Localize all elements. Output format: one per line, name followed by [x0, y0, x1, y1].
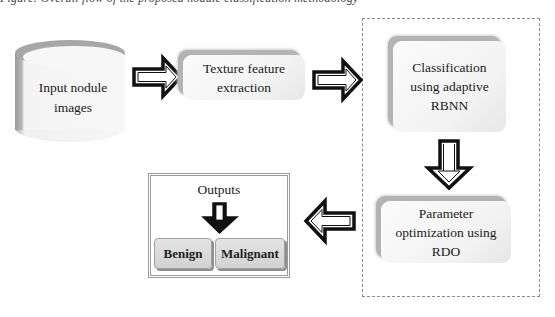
arrow-right-icon — [133, 57, 183, 97]
outputs-panel: Outputs Benign Malignant — [148, 173, 290, 278]
malignant-class-box: Malignant — [215, 238, 285, 269]
arrow-down-icon — [202, 202, 238, 234]
param-label-line3: RDO — [396, 242, 497, 261]
param-label-line2: optimization using — [396, 223, 497, 242]
figure-caption-cutoff: Figure: Overall flow of the proposed nod… — [0, 0, 555, 6]
input-images-cylinder: Input nodule images — [15, 40, 127, 142]
benign-class-box: Benign — [154, 238, 212, 269]
input-label-line2: images — [21, 98, 125, 118]
arrow-left-icon — [305, 200, 355, 242]
texture-feature-extraction-box: Texture feature extraction — [183, 55, 305, 100]
param-label-line1: Parameter — [396, 204, 497, 223]
cylinder-top — [15, 40, 125, 66]
input-label: Input nodule images — [21, 78, 125, 118]
classif-label-line1: Classification — [410, 58, 488, 77]
classif-label-line2: using adaptive — [410, 77, 488, 96]
texture-label-line1: Texture feature — [203, 59, 285, 78]
arrow-right-icon — [313, 60, 363, 100]
outputs-title: Outputs — [151, 182, 287, 198]
arrow-down-icon — [427, 140, 471, 190]
texture-label-line2: extraction — [203, 78, 285, 97]
classification-rbnn-box: Classification using adaptive RBNN — [393, 41, 506, 132]
parameter-optimization-rdo-box: Parameter optimization using RDO — [381, 201, 511, 263]
classif-label-line3: RBNN — [410, 96, 488, 115]
input-label-line1: Input nodule — [21, 78, 125, 98]
